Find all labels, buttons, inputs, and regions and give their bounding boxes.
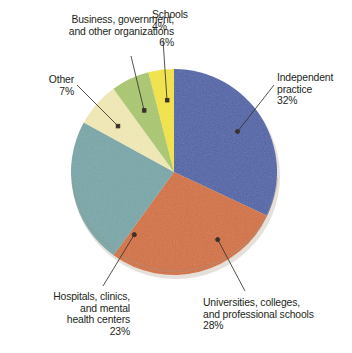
slice-label-hospitals: Hospitals, clinics, and mental health ce… [53,291,130,337]
pie-slices [71,69,277,275]
slice-label-hospitals-line1: Hospitals, clinics, [53,291,130,303]
slice-label-universities-percent: 28% [203,320,314,332]
slice-label-schools-line1: Schools [152,9,188,21]
slice-label-hospitals-line3: health centers [53,314,130,326]
slice-label-hospitals-percent: 23% [53,326,130,338]
slice-label-other: Other 7% [49,74,74,97]
slice-label-independent-line2: practice [277,84,333,96]
slice-label-universities-line1: Universities, colleges, [203,297,314,309]
slice-label-independent-practice: Independent practice 32% [277,72,333,107]
slice-label-other-percent: 7% [49,86,74,98]
slice-label-other-line1: Other [49,74,74,86]
slice-label-schools-percent: 4% [152,21,188,33]
slice-label-universities-line2: and professional schools [203,309,314,321]
slice-label-business-percent: 6% [69,37,174,49]
slice-label-schools: Schools 4% [152,9,188,32]
pie-chart: Business, government, and other organiza… [0,0,352,353]
slice-label-independent-percent: 32% [277,95,333,107]
slice-label-universities: Universities, colleges, and professional… [203,297,314,332]
slice-label-hospitals-line2: and mental [53,303,130,315]
slice-label-independent-line1: Independent [277,72,333,84]
